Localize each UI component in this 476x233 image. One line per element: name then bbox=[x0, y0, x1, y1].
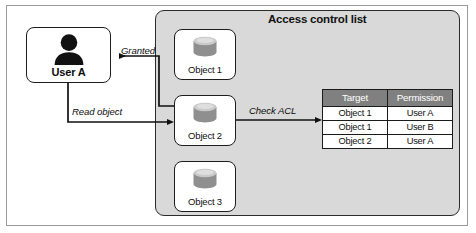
object-node-label: Object 3 bbox=[175, 196, 235, 207]
cell-permission: User A bbox=[388, 107, 453, 121]
object-node-1: Object 1 bbox=[174, 29, 236, 80]
cell-target: Object 1 bbox=[323, 107, 388, 121]
table-row: Object 1 User B bbox=[323, 121, 453, 135]
object-node-3: Object 3 bbox=[174, 161, 236, 212]
user-node: User A bbox=[26, 27, 111, 83]
database-icon bbox=[192, 36, 219, 58]
table-header-row: Target Permission bbox=[323, 90, 453, 107]
cell-target: Object 1 bbox=[323, 121, 388, 135]
table-row: Object 1 User A bbox=[323, 107, 453, 121]
arrow-label-check-acl: Check ACL bbox=[249, 105, 296, 116]
object-node-2: Object 2 bbox=[174, 95, 236, 146]
acl-table: Target Permission Object 1 User A Object… bbox=[322, 89, 453, 149]
arrow-label-granted: Granted bbox=[121, 45, 155, 56]
arrow-label-read-object: Read object bbox=[72, 106, 122, 117]
object-node-label: Object 2 bbox=[175, 130, 235, 141]
object-node-label: Object 1 bbox=[175, 64, 235, 75]
user-node-label: User A bbox=[27, 66, 110, 78]
arrow-granted bbox=[120, 56, 174, 106]
diagram-canvas: Access control list Granted Read object … bbox=[0, 0, 476, 233]
database-icon bbox=[192, 168, 219, 190]
user-icon bbox=[52, 34, 86, 65]
cell-target: Object 2 bbox=[323, 135, 388, 149]
cell-permission: User B bbox=[388, 121, 453, 135]
column-header-permission: Permission bbox=[388, 90, 453, 107]
database-icon bbox=[192, 102, 219, 124]
table-row: Object 2 User A bbox=[323, 135, 453, 149]
cell-permission: User A bbox=[388, 135, 453, 149]
column-header-target: Target bbox=[323, 90, 388, 107]
